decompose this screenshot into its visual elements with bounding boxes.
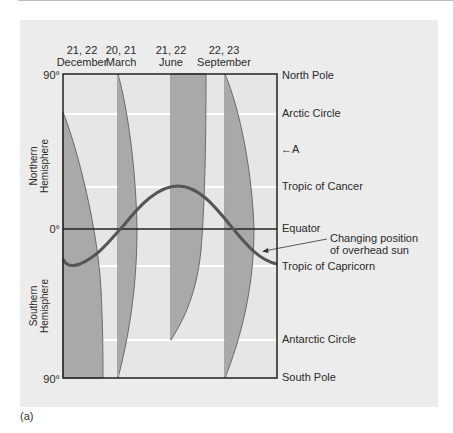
header-december-dates: 21, 22	[67, 44, 98, 56]
figure-caption: (a)	[20, 410, 33, 422]
header-december-month: December	[57, 56, 108, 68]
header-june-month: June	[159, 56, 183, 68]
northern-label-line2: Hemisphere	[39, 139, 50, 193]
header-march-dates: 20, 21	[106, 44, 137, 56]
label-north-pole: North Pole	[282, 69, 334, 81]
header-september-dates: 22, 23	[209, 44, 240, 56]
label-antarctic-circle: Antarctic Circle	[282, 333, 356, 345]
latitude-diagram: 21, 22 December 20, 21 March 21, 22 June…	[0, 0, 453, 433]
tick-90-north: 90°	[43, 69, 60, 81]
southern-label-line1: Southern	[28, 286, 39, 327]
tick-90-south: 90°	[43, 373, 60, 385]
header-september-month: September	[197, 56, 251, 68]
label-tropic-of-capricorn: Tropic of Capricorn	[282, 260, 375, 272]
label-tropic-of-cancer: Tropic of Cancer	[282, 180, 363, 192]
annotation-line1: Changing position	[330, 232, 418, 244]
southern-label-line2: Hemisphere	[39, 279, 50, 333]
label-equator: Equator	[282, 222, 321, 234]
header-march-month: March	[106, 56, 137, 68]
tick-0: 0°	[49, 223, 60, 235]
header-june-dates: 21, 22	[156, 44, 187, 56]
label-south-pole: South Pole	[282, 371, 336, 383]
annotation-line2: of overhead sun	[330, 244, 409, 256]
northern-label-line1: Northern	[28, 147, 39, 186]
label-marker-a: ←A	[281, 143, 300, 155]
label-arctic-circle: Arctic Circle	[282, 107, 341, 119]
